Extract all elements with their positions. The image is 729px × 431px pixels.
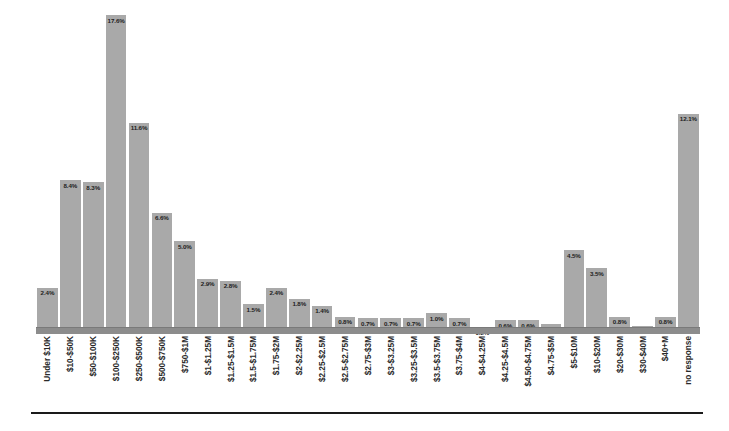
x-axis-tick-label: $1.75-$2M	[272, 336, 280, 375]
x-axis-tick-cell: $3.25-$3.5M	[403, 336, 424, 404]
bar-chart: 2.4%8.4%8.3%17.6%11.6%6.6%5.0%2.9%2.8%1.…	[0, 0, 729, 431]
x-axis-tick-cell: $750-$1M	[174, 336, 195, 404]
bar-value-label: 2.4%	[41, 290, 55, 296]
bar[interactable]: 3.5%	[586, 268, 607, 331]
x-axis-tick-label: $10-$20M	[593, 336, 601, 373]
x-axis-tick-label: $4.75-$5M	[547, 336, 555, 375]
x-axis-tick-cell: $2-$2.25M	[289, 336, 310, 404]
x-axis-tick-label: $1-$1.25M	[204, 336, 212, 375]
bar-value-label: 1.4%	[315, 308, 329, 314]
bottom-divider-rule	[31, 412, 703, 414]
bar-value-label: 8.4%	[63, 183, 77, 189]
x-axis-tick-cell: $1.5-$1.75M	[243, 336, 264, 404]
x-axis-tick-cell: $100-$250K	[106, 336, 127, 404]
bar-cell[interactable]: 1.0%	[426, 8, 447, 331]
bar[interactable]: 8.4%	[60, 180, 81, 331]
x-axis-tick-cell: $3-$3.25M	[380, 336, 401, 404]
bar-cell[interactable]: 0.4%	[541, 8, 562, 331]
bar-value-label: 1.5%	[247, 307, 261, 313]
x-axis-tick-label: $750-$1M	[181, 336, 189, 373]
x-axis-tick-cell: $5-$10M	[564, 336, 585, 404]
bar-cell[interactable]: 2.4%	[37, 8, 58, 331]
x-axis-tick-labels: Under $10K$10-$50K$50-$100K$100-$250K$25…	[36, 336, 700, 404]
plot-area: 2.4%8.4%8.3%17.6%11.6%6.6%5.0%2.9%2.8%1.…	[36, 8, 700, 331]
x-axis-tick-cell: $250-$500K	[129, 336, 150, 404]
bar-cell[interactable]: 17.6%	[106, 8, 127, 331]
bar[interactable]: 4.5%	[564, 250, 585, 331]
x-axis-tick-cell: $30-$40M	[632, 336, 653, 404]
x-axis-tick-cell: Under $10K	[37, 336, 58, 404]
bar-cell[interactable]: 5.0%	[174, 8, 195, 331]
x-axis-tick-label: $2.25-$2.5M	[318, 336, 326, 382]
bar[interactable]: 12.1%	[678, 114, 699, 331]
x-axis-tick-label: $5-$10M	[570, 336, 578, 368]
bar-cell[interactable]: 0.7%	[380, 8, 401, 331]
bar-cell[interactable]: 0.2%	[472, 8, 493, 331]
bar-cell[interactable]: 8.3%	[83, 8, 104, 331]
bar-cell[interactable]: 11.6%	[129, 8, 150, 331]
bar[interactable]: 11.6%	[129, 123, 150, 331]
bar-value-label: 6.6%	[155, 215, 169, 221]
bar-cell[interactable]: 0.8%	[609, 8, 630, 331]
bar-cell[interactable]: 3.5%	[586, 8, 607, 331]
bar-value-label: 2.9%	[201, 281, 215, 287]
x-axis-tick-label: no response	[684, 336, 692, 385]
bar-cell[interactable]: 0.7%	[449, 8, 470, 331]
bar-value-label: 2.4%	[269, 290, 283, 296]
x-axis-tick-cell: $20-$30M	[609, 336, 630, 404]
bar-cell[interactable]: 2.8%	[220, 8, 241, 331]
bar-cell[interactable]: 6.6%	[152, 8, 173, 331]
bar[interactable]: 6.6%	[152, 213, 173, 331]
x-axis-tick-cell: $10-$20M	[586, 336, 607, 404]
bar[interactable]: 2.9%	[197, 279, 218, 331]
x-axis-tick-cell: $4.75-$5M	[541, 336, 562, 404]
bar-cell[interactable]: 0.3%	[632, 8, 653, 331]
bar[interactable]: 5.0%	[174, 241, 195, 331]
x-axis-tick-label: $250-$500K	[135, 336, 143, 381]
x-axis-tick-cell: $50-$100K	[83, 336, 104, 404]
bar-cell[interactable]: 4.5%	[564, 8, 585, 331]
x-axis-tick-cell: $500-$750K	[152, 336, 173, 404]
axis-baseline	[36, 327, 700, 334]
bar-cell[interactable]: 12.1%	[678, 8, 699, 331]
bar[interactable]: 8.3%	[83, 182, 104, 331]
bar-cell[interactable]: 1.5%	[243, 8, 264, 331]
bar-cell[interactable]: 1.4%	[312, 8, 333, 331]
bar-value-label: 1.0%	[430, 316, 444, 322]
bar[interactable]: 2.4%	[37, 288, 58, 331]
x-axis-tick-label: $40+M	[661, 336, 669, 361]
bar-cell[interactable]: 0.6%	[495, 8, 516, 331]
bar-value-label: 17.6%	[108, 18, 125, 24]
bar-value-label: 8.3%	[86, 185, 100, 191]
x-axis-tick-label: Under $10K	[43, 336, 51, 382]
x-axis-tick-cell: $4.50-$4.75M	[518, 336, 539, 404]
bar-cell[interactable]: 8.4%	[60, 8, 81, 331]
x-axis-tick-label: $3.25-$3.5M	[410, 336, 418, 382]
x-axis-tick-label: $20-$30M	[616, 336, 624, 373]
bar-cell[interactable]: 0.7%	[403, 8, 424, 331]
bar-cell[interactable]: 0.7%	[358, 8, 379, 331]
bar-value-label: 2.8%	[224, 283, 238, 289]
x-axis-tick-label: $4-$4.25M	[478, 336, 486, 375]
bar-cell[interactable]: 1.8%	[289, 8, 310, 331]
bar-value-label: 0.8%	[659, 319, 673, 325]
bar-cell[interactable]: 2.4%	[266, 8, 287, 331]
bar-cell[interactable]: 0.8%	[335, 8, 356, 331]
x-axis-tick-cell: $2.25-$2.5M	[312, 336, 333, 404]
bar[interactable]: 2.4%	[266, 288, 287, 331]
x-axis-tick-label: $1.25-$1.5M	[226, 336, 234, 382]
bar-value-label: 1.8%	[292, 301, 306, 307]
x-axis-tick-label: $3-$3.25M	[387, 336, 395, 375]
bar-series: 2.4%8.4%8.3%17.6%11.6%6.6%5.0%2.9%2.8%1.…	[36, 8, 700, 331]
bar-cell[interactable]: 0.8%	[655, 8, 676, 331]
x-axis-tick-cell: $40+M	[655, 336, 676, 404]
x-axis-tick-label: $50-$100K	[89, 336, 97, 377]
bar-cell[interactable]: 2.9%	[197, 8, 218, 331]
x-axis-tick-label: $1.5-$1.75M	[249, 336, 257, 382]
bar[interactable]: 2.8%	[220, 281, 241, 331]
bar[interactable]: 17.6%	[106, 15, 127, 331]
x-axis-tick-label: $10-$50K	[66, 336, 74, 372]
x-axis-tick-label: $3.75-$4M	[455, 336, 463, 375]
x-axis-tick-cell: $4.25-$4.5M	[495, 336, 516, 404]
bar-cell[interactable]: 0.6%	[518, 8, 539, 331]
